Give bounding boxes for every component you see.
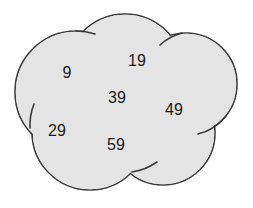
region-number-39: 39 — [108, 90, 126, 106]
region-number-19: 19 — [128, 53, 146, 69]
cloud-shape — [0, 0, 253, 208]
region-number-9: 9 — [63, 65, 72, 81]
region-number-29: 29 — [48, 123, 66, 139]
cloud-diagram: 9 19 39 49 29 59 — [0, 0, 253, 208]
region-number-49: 49 — [165, 102, 183, 118]
region-number-59: 59 — [107, 137, 125, 153]
